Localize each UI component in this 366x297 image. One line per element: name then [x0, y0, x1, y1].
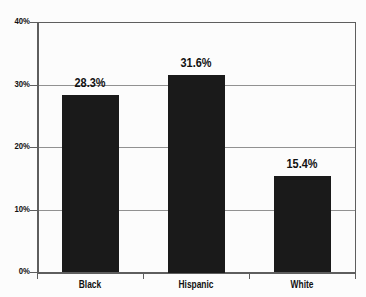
plot-border-right [355, 22, 356, 272]
bar-black [62, 95, 119, 272]
plot-border-top [37, 22, 356, 23]
y-axis-tick [30, 210, 37, 211]
bar-white [274, 176, 331, 272]
y-axis-tick-label: 20% [6, 142, 30, 151]
y-axis-tick [30, 85, 37, 86]
bar-value-label: 15.4% [273, 157, 332, 170]
y-axis-line [37, 22, 39, 272]
y-axis-tick-label: 10% [6, 205, 30, 214]
y-axis-tick-label: 40% [6, 17, 30, 26]
x-axis-category-label: Black [56, 280, 123, 290]
x-axis-category-label: White [268, 280, 335, 290]
x-axis-category-label: Hispanic [162, 280, 229, 290]
y-axis-tick [30, 147, 37, 148]
x-axis-tick [355, 274, 356, 279]
bar-value-label: 28.3% [61, 76, 120, 89]
y-axis-tick-label: 0% [6, 267, 30, 276]
x-axis-tick [249, 274, 250, 279]
y-axis-tick [30, 272, 37, 273]
bar-chart: 0%10%20%30%40%28.3%Black31.6%Hispanic15.… [0, 0, 366, 297]
x-axis-tick [143, 274, 144, 279]
bar-hispanic [168, 75, 225, 273]
y-axis-tick [30, 22, 37, 23]
x-axis-tick [37, 274, 38, 279]
bar-value-label: 31.6% [167, 56, 226, 69]
y-axis-tick-label: 30% [6, 80, 30, 89]
